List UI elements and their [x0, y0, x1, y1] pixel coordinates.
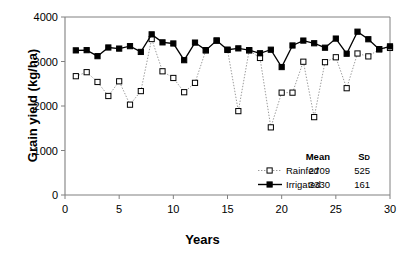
svg-text:2709: 2709 — [309, 165, 330, 176]
chart-plot-area: 01000200030004000 051015202530 MeanSDRai… — [0, 0, 405, 262]
x-axis-title: Years — [0, 232, 405, 247]
svg-text:SD: SD — [358, 151, 370, 162]
series-irrigated — [73, 29, 392, 70]
svg-text:Mean: Mean — [306, 151, 330, 162]
svg-text:10: 10 — [167, 203, 179, 215]
x-axis-ticks: 051015202530 — [62, 195, 396, 215]
svg-text:161: 161 — [354, 179, 370, 190]
svg-text:15: 15 — [221, 203, 233, 215]
svg-text:25: 25 — [330, 203, 342, 215]
svg-text:525: 525 — [354, 165, 370, 176]
chart-frame — [65, 17, 390, 195]
y-axis-title: Grain yield (kg/ha) — [25, 11, 40, 201]
svg-text:30: 30 — [384, 203, 396, 215]
svg-text:3330: 3330 — [309, 179, 330, 190]
svg-text:5: 5 — [116, 203, 122, 215]
chart-legend: MeanSDRainfed2709525Irrigated3330161 — [258, 151, 371, 190]
svg-text:20: 20 — [276, 203, 288, 215]
svg-text:0: 0 — [62, 203, 68, 215]
svg-text:0: 0 — [52, 189, 58, 201]
chart-container: Grain yield (kg/ha) Years 01000200030004… — [0, 0, 405, 262]
